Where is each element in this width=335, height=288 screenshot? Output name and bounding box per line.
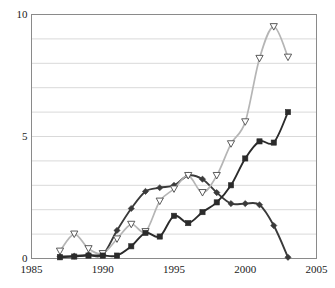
series-triangle-point-13 [242,119,249,125]
series-square-point-7 [157,234,162,239]
x-tick-label-1985: 1985 [16,264,48,275]
series-square-point-3 [100,253,105,258]
series-square-point-5 [129,244,134,249]
series-square-point-0 [57,255,62,260]
series-triangle [56,24,291,257]
series-triangle-point-14 [256,55,263,61]
series-triangle-point-16 [284,54,291,60]
series-diamond-point-13 [242,201,248,207]
series-square-point-4 [114,253,119,258]
x-tick-label-1995: 1995 [158,264,190,275]
series-square-point-12 [228,183,233,188]
series-triangle-point-10 [199,190,206,196]
y-tick-label-10: 10 [17,9,28,20]
x-tick-label-1990: 1990 [87,264,119,275]
series-square-point-1 [72,254,77,259]
series-square-point-14 [257,139,262,144]
series-square-point-13 [243,156,248,161]
series-triangle-point-11 [213,172,220,178]
y-tick-label-5: 5 [22,131,28,142]
series-diamond-point-16 [285,254,291,260]
data-series-group [56,24,291,261]
series-square-point-16 [285,110,290,115]
series-square-point-8 [171,213,176,218]
x-tick-label-2005: 2005 [301,264,333,275]
y-tick-label-0: 0 [22,253,28,264]
chart-plot-area [0,0,335,288]
series-square-point-6 [143,230,148,235]
gridlines [32,39,317,234]
series-square-point-11 [214,200,219,205]
series-square-point-15 [271,140,276,145]
series-square-point-2 [86,253,91,258]
line-chart: 0510 19851990199520002005 [0,0,335,288]
series-square-point-9 [186,221,191,226]
series-triangle-point-12 [227,141,234,147]
series-square-point-10 [200,210,205,215]
series-triangle-point-7 [156,198,163,204]
series-triangle-line [60,27,288,254]
series-triangle-point-0 [56,248,63,254]
x-tick-label-2000: 2000 [229,264,261,275]
